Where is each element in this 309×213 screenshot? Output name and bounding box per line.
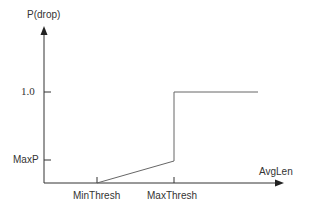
- drop-probability-curve: [97, 92, 258, 183]
- y-axis-arrow-icon: [41, 26, 48, 35]
- y-tick-label-1: 1.0: [21, 86, 35, 97]
- x-axis-arrow-icon: [275, 180, 284, 187]
- diagram-canvas: [0, 0, 309, 213]
- x-tick-label-maxthresh: MaxThresh: [147, 191, 197, 201]
- x-axis-label: AvgLen: [259, 167, 293, 177]
- red-drop-probability-diagram: P(drop) 1.0 MaxP MinThresh MaxThresh Avg…: [0, 0, 309, 213]
- y-tick-label-maxp: MaxP: [13, 155, 39, 165]
- x-tick-label-minthresh: MinThresh: [73, 191, 120, 201]
- y-axis-label: P(drop): [27, 10, 60, 20]
